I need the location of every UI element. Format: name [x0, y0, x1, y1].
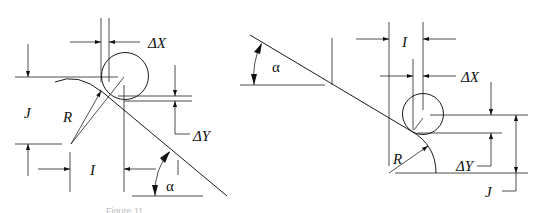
i-label: I [401, 34, 408, 50]
diagram-canvas: ΔX J R I ΔY [0, 0, 541, 213]
radius-to-center-line [71, 77, 124, 144]
delta-y-label: ΔY [455, 158, 475, 174]
alpha-arrow-top [254, 43, 262, 54]
j-label: J [24, 105, 32, 121]
delta-x-label: ΔX [147, 35, 167, 51]
alpha-arrow-top [160, 151, 170, 163]
j-label: J [485, 184, 493, 200]
radius-arrow [71, 91, 101, 144]
right-diagram: α I ΔX R ΔY J [240, 22, 528, 200]
delta-x-label: ΔX [460, 69, 480, 85]
circle-radius-mark [414, 118, 423, 130]
r-label: R [392, 151, 402, 167]
workpiece-slope-line [250, 35, 411, 131]
alpha-arrow-bottom [251, 74, 257, 85]
delta-y-label: ΔY [192, 128, 212, 144]
alpha-arrow-bottom [152, 185, 158, 196]
alpha-label: α [166, 178, 174, 194]
figure-caption: Figure 11 [106, 206, 143, 213]
i-label: I [89, 162, 96, 178]
left-diagram: ΔX J R I ΔY [15, 18, 227, 213]
r-label: R [62, 109, 72, 125]
workpiece-arc [55, 79, 102, 92]
tool-nose-circle [102, 53, 149, 100]
workpiece-arc [411, 131, 436, 173]
alpha-label: α [272, 59, 280, 75]
